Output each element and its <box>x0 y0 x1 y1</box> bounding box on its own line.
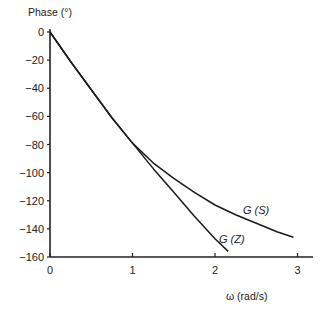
x-tick-label: 3 <box>294 264 300 276</box>
series-label-gz: G (Z) <box>219 233 245 245</box>
phase-chart: 0−20−40−60−80−100−120−140−1600123 Phase … <box>0 0 323 315</box>
x-tick-label: 1 <box>129 264 135 276</box>
curve-gz <box>50 32 228 251</box>
y-tick-label: −140 <box>19 223 44 235</box>
axes: 0−20−40−60−80−100−120−140−1600123 <box>19 26 313 276</box>
series-label-gs: G (S) <box>243 204 270 216</box>
x-axis-label: ω (rad/s) <box>226 290 267 302</box>
y-tick-label: −60 <box>25 110 44 122</box>
y-tick-label: −120 <box>19 195 44 207</box>
curves <box>50 32 293 251</box>
y-tick-label: −100 <box>19 167 44 179</box>
y-tick-label: −40 <box>25 82 44 94</box>
x-tick-label: 2 <box>212 264 218 276</box>
y-tick-label: −80 <box>25 139 44 151</box>
y-tick-label: 0 <box>38 26 44 38</box>
y-tick-label: −160 <box>19 251 44 263</box>
y-axis-label: Phase (°) <box>28 6 72 18</box>
y-tick-label: −20 <box>25 54 44 66</box>
x-tick-label: 0 <box>47 264 53 276</box>
